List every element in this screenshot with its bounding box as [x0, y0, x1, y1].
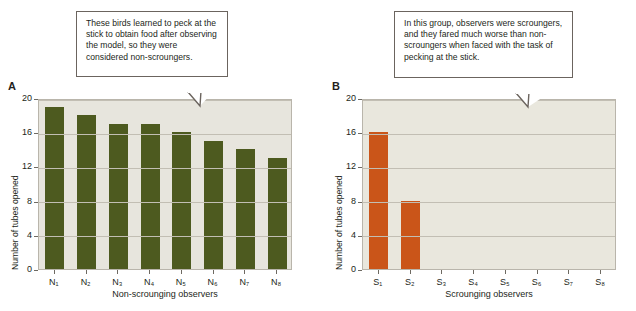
gridline — [363, 236, 615, 237]
callout-b-text: In this group, observers were scroungers… — [404, 18, 564, 63]
callout-b: In this group, observers were scroungers… — [394, 11, 573, 78]
panel-b-bars — [363, 100, 615, 269]
x-tick-mark — [54, 270, 55, 274]
y-tick-label: 4 — [332, 230, 356, 240]
y-tick-mark — [358, 133, 362, 134]
panel-a-bars — [39, 100, 291, 269]
panel-a-x-axis-title: Non-scrounging observers — [38, 289, 292, 299]
y-tick-mark — [358, 99, 362, 100]
y-tick-label: 12 — [332, 161, 356, 171]
x-tick-mark — [213, 270, 214, 274]
y-tick-label: 16 — [8, 127, 32, 137]
gridline — [363, 202, 615, 203]
x-tick-label-N1: N₁ — [39, 277, 69, 287]
x-tick-label-N7: N₇ — [229, 277, 259, 287]
x-tick-mark — [244, 270, 245, 274]
x-tick-label-S5: S₅ — [490, 277, 520, 287]
bar-S1 — [369, 132, 388, 269]
x-tick-mark — [410, 270, 411, 274]
y-tick-mark — [358, 270, 362, 271]
x-tick-label-S8: S₈ — [585, 277, 615, 287]
y-tick-label: 8 — [332, 196, 356, 206]
callout-a-tail — [180, 76, 230, 108]
x-tick-mark — [149, 270, 150, 274]
y-tick-mark — [358, 167, 362, 168]
x-tick-label-N5: N₅ — [166, 277, 196, 287]
gridline — [363, 100, 615, 101]
panel-b-x-axis-title: Scrounging observers — [362, 289, 616, 299]
bar-N4 — [141, 124, 160, 269]
panel-a: A These birds learned to peck at the sti… — [0, 0, 318, 311]
y-tick-label: 16 — [332, 127, 356, 137]
y-tick-label: 0 — [332, 264, 356, 274]
y-tick-mark — [34, 167, 38, 168]
y-tick-mark — [34, 270, 38, 271]
x-tick-label-S2: S₂ — [395, 277, 425, 287]
bar-N6 — [204, 141, 223, 269]
x-tick-mark — [473, 270, 474, 274]
y-tick-mark — [34, 236, 38, 237]
x-tick-mark — [276, 270, 277, 274]
x-tick-label-N3: N₃ — [102, 277, 132, 287]
y-tick-mark — [358, 236, 362, 237]
gridline — [39, 202, 291, 203]
x-tick-mark — [86, 270, 87, 274]
gridline — [39, 168, 291, 169]
panel-a-letter: A — [8, 80, 16, 92]
bar-N5 — [172, 132, 191, 269]
figure-root: A These birds learned to peck at the sti… — [0, 0, 636, 311]
bar-N3 — [109, 124, 128, 269]
panel-b-plot-area — [362, 99, 616, 270]
y-tick-mark — [34, 99, 38, 100]
callout-a: These birds learned to peck at the stick… — [76, 11, 228, 77]
gridline — [39, 134, 291, 135]
x-tick-label-N8: N₈ — [261, 277, 291, 287]
y-tick-label: 0 — [8, 264, 32, 274]
x-tick-mark — [568, 270, 569, 274]
y-tick-label: 20 — [332, 93, 356, 103]
x-tick-label-S7: S₇ — [553, 277, 583, 287]
callout-b-tail — [508, 77, 568, 109]
x-tick-mark — [600, 270, 601, 274]
y-tick-mark — [34, 202, 38, 203]
y-tick-label: 8 — [8, 196, 32, 206]
x-tick-label-S4: S₄ — [458, 277, 488, 287]
y-tick-label: 12 — [8, 161, 32, 171]
y-tick-label: 4 — [8, 230, 32, 240]
y-tick-mark — [358, 202, 362, 203]
x-tick-label-N2: N₂ — [71, 277, 101, 287]
x-tick-mark — [181, 270, 182, 274]
y-tick-label: 20 — [8, 93, 32, 103]
x-tick-mark — [505, 270, 506, 274]
panel-b-y-axis-title: Number of tubes opened — [334, 175, 344, 270]
x-tick-mark — [441, 270, 442, 274]
x-tick-mark — [537, 270, 538, 274]
x-tick-label-N6: N₆ — [198, 277, 228, 287]
x-tick-label-S6: S₆ — [522, 277, 552, 287]
callout-a-text: These birds learned to peck at the stick… — [86, 18, 219, 63]
panel-a-plot-area — [38, 99, 292, 270]
bar-N1 — [45, 107, 64, 269]
bar-N8 — [268, 158, 287, 269]
bar-S2 — [401, 201, 420, 269]
panel-a-y-axis-title: Number of tubes opened — [10, 175, 20, 270]
x-tick-label-S1: S₁ — [363, 277, 393, 287]
x-tick-mark — [378, 270, 379, 274]
panel-b-letter: B — [332, 80, 340, 92]
gridline — [39, 236, 291, 237]
x-tick-label-S3: S₃ — [426, 277, 456, 287]
x-tick-mark — [117, 270, 118, 274]
x-tick-label-N4: N₄ — [134, 277, 164, 287]
gridline — [39, 100, 291, 101]
gridline — [363, 134, 615, 135]
gridline — [363, 168, 615, 169]
panel-b: B In this group, observers were scrounge… — [318, 0, 636, 311]
y-tick-mark — [34, 133, 38, 134]
bar-N2 — [77, 115, 96, 269]
